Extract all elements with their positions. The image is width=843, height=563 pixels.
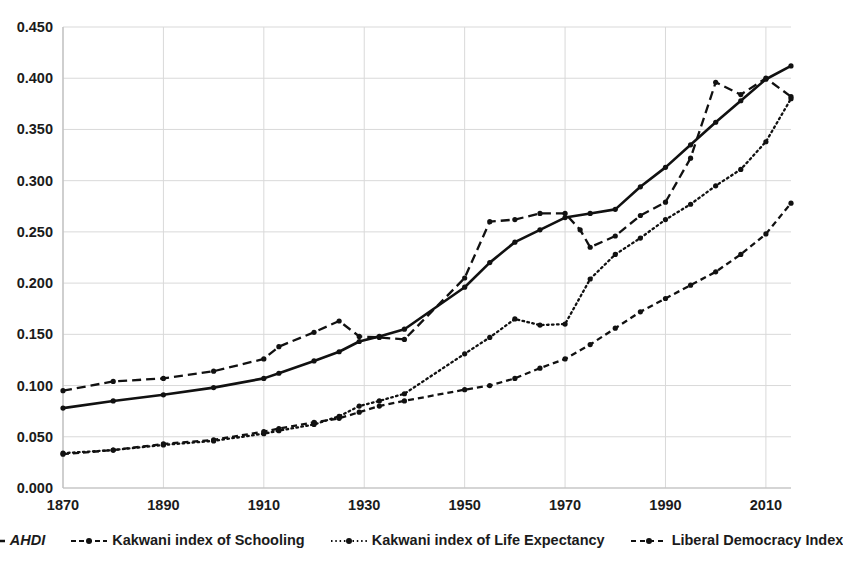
data-point-marker (562, 356, 567, 361)
data-point-marker (357, 410, 362, 415)
data-point-marker (462, 275, 467, 280)
data-point-marker (613, 207, 618, 212)
data-point-marker (738, 92, 743, 97)
data-point-marker (311, 330, 316, 335)
data-point-marker (111, 398, 116, 403)
data-point-marker (111, 448, 116, 453)
data-point-marker (738, 252, 743, 257)
data-point-marker (713, 183, 718, 188)
x-tick-label: 1930 (348, 497, 380, 513)
data-point-marker (276, 344, 281, 349)
data-point-marker (537, 227, 542, 232)
legend-line-swatch-icon (0, 534, 5, 546)
data-point-marker (311, 358, 316, 363)
data-point-marker (638, 213, 643, 218)
data-point-marker (638, 235, 643, 240)
y-axis-tick-labels: 0.0000.0500.1000.1500.2000.2500.3000.350… (17, 19, 53, 496)
data-point-marker (562, 211, 567, 216)
data-point-marker (60, 405, 65, 410)
legend-item-ahdi[interactable]: AHDI (0, 533, 45, 548)
data-point-marker (738, 98, 743, 103)
series-kakwani-index-of-schooling (60, 76, 793, 394)
data-point-marker (487, 219, 492, 224)
data-point-marker (788, 63, 793, 68)
data-point-marker (377, 398, 382, 403)
data-point-marker (211, 385, 216, 390)
x-tick-label: 1950 (449, 497, 481, 513)
data-point-marker (487, 383, 492, 388)
y-tick-label: 0.350 (17, 121, 53, 137)
data-point-marker (613, 233, 618, 238)
data-point-marker (337, 318, 342, 323)
data-point-marker (337, 416, 342, 421)
legend-line-swatch-icon (71, 534, 107, 546)
data-point-marker (311, 420, 316, 425)
data-point-marker (161, 441, 166, 446)
data-point-marker (638, 309, 643, 314)
data-point-marker (512, 376, 517, 381)
data-point-marker (402, 337, 407, 342)
legend-item-label: AHDI (10, 533, 45, 548)
data-point-marker (402, 327, 407, 332)
data-point-marker (487, 335, 492, 340)
legend-line-swatch-icon (631, 534, 667, 546)
y-tick-label: 0.150 (17, 326, 53, 342)
data-point-marker (763, 231, 768, 236)
data-point-marker (377, 335, 382, 340)
data-point-marker (613, 252, 618, 257)
data-point-marker (211, 369, 216, 374)
axis-lines (63, 27, 791, 488)
data-point-marker (487, 260, 492, 265)
chart-legend: AHDIKakwani index of SchoolingKakwani in… (0, 523, 812, 557)
series-line (63, 78, 791, 390)
data-point-marker (713, 120, 718, 125)
data-point-marker (357, 334, 362, 339)
x-tick-label: 1870 (47, 497, 79, 513)
data-point-marker (357, 339, 362, 344)
y-tick-label: 0.050 (17, 429, 53, 445)
data-point-marker (738, 167, 743, 172)
data-point-marker (688, 156, 693, 161)
legend-item-kakwani-index-of-schooling[interactable]: Kakwani index of Schooling (71, 533, 305, 548)
data-point-marker (663, 296, 668, 301)
data-point-marker (537, 366, 542, 371)
y-tick-label: 0.400 (17, 70, 53, 86)
legend-item-label: Kakwani index of Life Expectancy (372, 533, 605, 548)
data-point-marker (261, 356, 266, 361)
data-point-marker (111, 379, 116, 384)
y-tick-label: 0.200 (17, 275, 53, 291)
data-point-marker (512, 316, 517, 321)
data-point-marker (613, 326, 618, 331)
data-point-marker (588, 276, 593, 281)
data-point-marker (161, 376, 166, 381)
data-point-marker (663, 200, 668, 205)
data-point-marker (462, 387, 467, 392)
data-point-marker (713, 269, 718, 274)
data-point-marker (578, 227, 583, 232)
y-tick-label: 0.300 (17, 173, 53, 189)
data-point-marker (588, 211, 593, 216)
data-point-marker (402, 398, 407, 403)
legend-item-kakwani-index-of-life-expectancy[interactable]: Kakwani index of Life Expectancy (331, 533, 605, 548)
series-line (63, 203, 791, 454)
series-liberal-democracy-index (60, 201, 793, 457)
y-tick-label: 0.100 (17, 378, 53, 394)
data-point-marker (276, 371, 281, 376)
series-ahdi (60, 63, 793, 410)
data-point-marker (588, 342, 593, 347)
data-point-marker (663, 165, 668, 170)
data-point-marker (763, 139, 768, 144)
x-tick-label: 1890 (147, 497, 179, 513)
legend-item-liberal-democracy-index[interactable]: Liberal Democracy Index (631, 533, 843, 548)
data-point-marker (663, 217, 668, 222)
data-point-marker (377, 403, 382, 408)
x-tick-label: 2010 (750, 497, 782, 513)
data-point-marker (788, 96, 793, 101)
series-line (63, 66, 791, 408)
x-axis-tick-labels: 18701890191019301950197019902010 (47, 497, 782, 513)
legend-item-label: Kakwani index of Schooling (112, 533, 305, 548)
data-point-marker (713, 80, 718, 85)
y-tick-label: 0.250 (17, 224, 53, 240)
